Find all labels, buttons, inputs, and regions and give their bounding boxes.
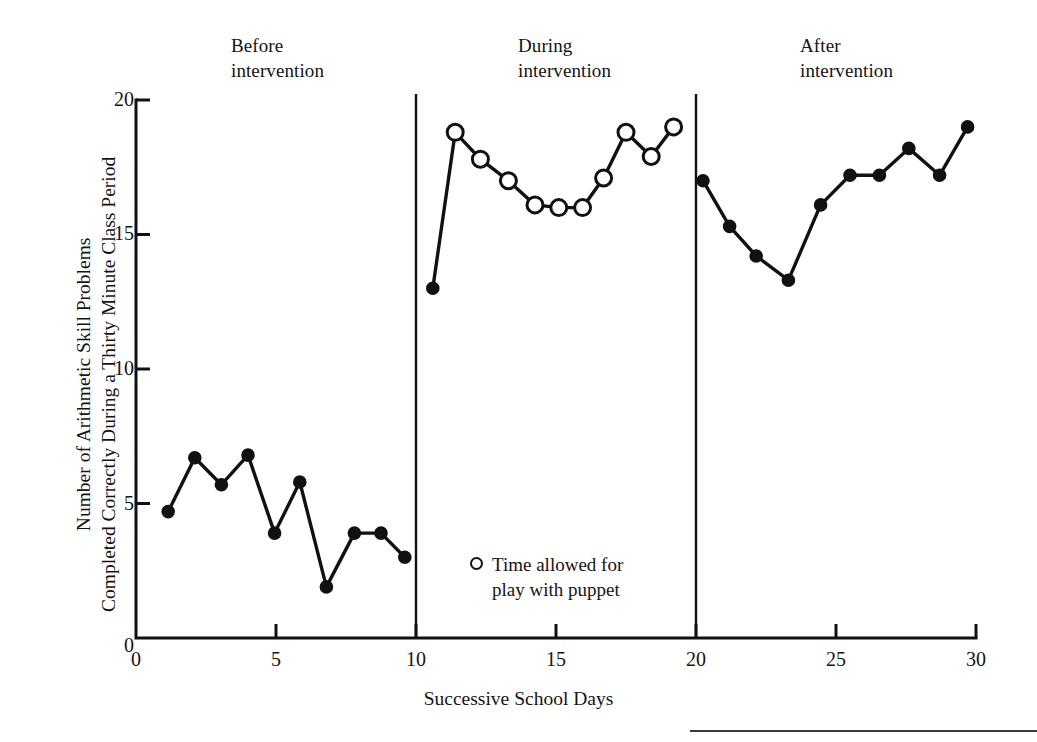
x-tick-label-15: 15 (526, 648, 586, 671)
footer-rule (690, 730, 1037, 732)
data-point-filled (427, 283, 438, 294)
data-point-filled (189, 452, 200, 463)
y-tick-label-10: 10 (88, 357, 134, 380)
data-point-open-circle (618, 124, 634, 140)
y-tick-label-20: 20 (88, 88, 134, 111)
data-point-filled (321, 581, 332, 592)
phase-label-after: After intervention (800, 34, 893, 83)
data-point-filled (349, 528, 360, 539)
data-point-open-circle (500, 173, 516, 189)
data-point-filled (375, 528, 386, 539)
data-point-open-circle (575, 200, 591, 216)
x-tick-label-20: 20 (666, 648, 726, 671)
data-point-filled (783, 275, 794, 286)
data-point-open-circle (643, 149, 659, 165)
data-point-filled (844, 170, 855, 181)
x-tick-label-5: 5 (246, 648, 306, 671)
open-circle-icon (470, 557, 483, 570)
phase-label-before: Before intervention (231, 34, 324, 83)
data-point-open-circle (551, 200, 567, 216)
legend-label: Time allowed for play with puppet (492, 552, 623, 602)
y-tick-label-15: 15 (88, 222, 134, 245)
data-point-filled (724, 221, 735, 232)
data-point-open-circle (527, 197, 543, 213)
data-point-filled (216, 479, 227, 490)
x-tick-label-30: 30 (946, 648, 1006, 671)
data-point-filled (874, 170, 885, 181)
phase-label-during: During intervention (518, 34, 611, 83)
x-tick-label-25: 25 (806, 648, 866, 671)
x-tick-label-10: 10 (386, 648, 446, 671)
data-point-filled (962, 121, 973, 132)
series-during-intervention (427, 119, 681, 294)
data-point-filled (697, 175, 708, 186)
data-point-filled (399, 552, 410, 563)
data-point-filled (294, 476, 305, 487)
legend: Time allowed for play with puppet (470, 552, 623, 602)
data-point-open-circle (447, 124, 463, 140)
data-point-filled (903, 143, 914, 154)
data-point-filled (242, 450, 253, 461)
figure-chart-arithmetic-problems: Before intervention During intervention … (0, 0, 1037, 742)
data-point-filled (934, 170, 945, 181)
data-point-filled (163, 506, 174, 517)
data-point-filled (815, 199, 826, 210)
data-point-open-circle (666, 119, 682, 135)
x-axis-title: Successive School Days (0, 688, 1037, 710)
data-point-filled (269, 528, 280, 539)
data-series-layer (163, 119, 974, 593)
series-after-intervention (697, 121, 973, 286)
legend-row: Time allowed for play with puppet (470, 552, 623, 602)
plot-area (0, 0, 1037, 742)
data-point-open-circle (596, 170, 612, 186)
y-axis-title: Number of Arithmetic Skill Problems Comp… (71, 104, 122, 664)
data-point-filled (751, 250, 762, 261)
y-tick-label-5: 5 (88, 492, 134, 515)
x-tick-label-0: 0 (106, 648, 166, 671)
series-before-intervention (163, 450, 411, 593)
data-point-open-circle (472, 151, 488, 167)
